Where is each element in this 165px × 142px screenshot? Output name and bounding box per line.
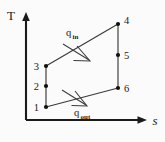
- state-points-group: [44, 22, 120, 109]
- heat-out-label: q out: [74, 107, 91, 121]
- heat-addition-line: [46, 24, 118, 66]
- state-label-4: 4: [124, 15, 130, 26]
- temperature-axis-arrowhead: [22, 12, 30, 21]
- process-lines-group: [46, 24, 118, 107]
- entropy-axis-arrowhead: [138, 116, 148, 124]
- state-point-1: [44, 105, 48, 109]
- ts-diagram-canvas: T s 1 2 3 4 5: [0, 0, 165, 142]
- state-label-1: 1: [34, 102, 39, 113]
- state-point-6: [116, 86, 120, 90]
- entropy-axis-label: s: [152, 113, 157, 128]
- state-label-5: 5: [124, 50, 129, 61]
- heat-out-subscript: out: [81, 113, 91, 121]
- heat-in-label: q in: [66, 27, 78, 41]
- state-point-2: [44, 84, 48, 88]
- axes-group: [22, 12, 147, 124]
- heat-in-subscript: in: [73, 33, 79, 41]
- heat-in-arrow: [63, 44, 90, 61]
- state-point-4: [116, 22, 120, 26]
- state-point-5: [116, 53, 120, 57]
- heat-out-base: q: [74, 107, 80, 118]
- state-label-2: 2: [34, 81, 39, 92]
- temperature-axis-label: T: [7, 8, 15, 23]
- state-label-6: 6: [124, 83, 129, 94]
- heat-rejection-line: [46, 88, 118, 107]
- state-label-3: 3: [34, 61, 39, 72]
- heat-out-arrow: [62, 90, 87, 106]
- state-point-3: [44, 64, 48, 68]
- heat-in-base: q: [66, 27, 72, 38]
- ts-diagram: T s 1 2 3 4 5: [0, 0, 165, 142]
